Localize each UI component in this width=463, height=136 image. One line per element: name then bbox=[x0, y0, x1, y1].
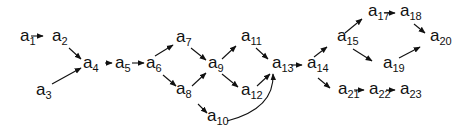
node-a10: a10 bbox=[207, 106, 229, 127]
node-letter: a bbox=[369, 79, 379, 98]
node-letter: a bbox=[83, 53, 93, 72]
node-subscript: 8 bbox=[186, 88, 192, 100]
node-letter: a bbox=[176, 79, 186, 98]
edge-a15-to-a19 bbox=[353, 49, 372, 61]
edge-a19-to-a20 bbox=[399, 47, 420, 58]
node-letter: a bbox=[36, 80, 46, 99]
edge-a3-to-a4 bbox=[52, 68, 81, 84]
edge-a15-to-a17 bbox=[345, 19, 362, 33]
node-subscript: 2 bbox=[62, 35, 68, 47]
node-subscript: 17 bbox=[378, 10, 390, 22]
node-letter: a bbox=[241, 26, 251, 45]
node-subscript: 5 bbox=[125, 62, 131, 74]
node-a8: a8 bbox=[176, 79, 192, 100]
edge-a8-to-a9 bbox=[192, 73, 206, 86]
node-a14: a14 bbox=[307, 53, 329, 74]
node-letter: a bbox=[241, 80, 251, 99]
node-letter: a bbox=[20, 26, 30, 45]
node-a3: a3 bbox=[36, 80, 52, 101]
node-subscript: 23 bbox=[410, 88, 422, 100]
edge-a18-to-a20 bbox=[414, 24, 425, 33]
node-a22: a22 bbox=[369, 79, 391, 100]
node-subscript: 3 bbox=[46, 89, 52, 101]
node-subscript: 1 bbox=[30, 35, 36, 47]
node-letter: a bbox=[52, 26, 62, 45]
node-a2: a2 bbox=[52, 26, 68, 47]
node-letter: a bbox=[176, 27, 186, 46]
node-letter: a bbox=[115, 53, 125, 72]
edge-a6-to-a7 bbox=[155, 45, 173, 56]
node-letter: a bbox=[208, 53, 218, 72]
node-a18: a18 bbox=[400, 1, 422, 22]
node-subscript: 9 bbox=[218, 62, 224, 74]
node-subscript: 21 bbox=[348, 88, 360, 100]
edge-a12-to-a13 bbox=[257, 74, 270, 86]
node-subscript: 11 bbox=[251, 35, 262, 47]
node-a1: a1 bbox=[20, 26, 36, 47]
node-subscript: 20 bbox=[440, 35, 452, 47]
node-letter: a bbox=[207, 106, 217, 125]
edge-a2-to-a4 bbox=[69, 48, 81, 59]
node-subscript: 22 bbox=[379, 88, 391, 100]
node-letter: a bbox=[368, 1, 378, 20]
node-letter: a bbox=[400, 1, 410, 20]
node-subscript: 19 bbox=[393, 62, 405, 74]
node-a17: a17 bbox=[368, 1, 390, 22]
node-a20: a20 bbox=[430, 26, 452, 47]
node-subscript: 18 bbox=[410, 10, 422, 22]
node-subscript: 10 bbox=[217, 115, 229, 127]
edge-a11-to-a13 bbox=[256, 48, 268, 59]
node-letter: a bbox=[307, 53, 317, 72]
node-subscript: 15 bbox=[347, 35, 359, 47]
node-a15: a15 bbox=[337, 26, 359, 47]
node-subscript: 14 bbox=[317, 62, 329, 74]
node-a9: a9 bbox=[208, 53, 224, 74]
node-letter: a bbox=[430, 26, 440, 45]
edge-a9-to-a11 bbox=[222, 46, 236, 59]
node-letter: a bbox=[337, 26, 347, 45]
node-letter: a bbox=[146, 53, 156, 72]
node-subscript: 12 bbox=[251, 89, 263, 101]
directed-graph: a1a2a3a4a5a6a7a8a9a10a11a12a13a14a15a17a… bbox=[0, 0, 463, 136]
node-a4: a4 bbox=[83, 53, 99, 74]
edge-a14-to-a21 bbox=[318, 78, 330, 88]
node-letter: a bbox=[338, 79, 348, 98]
node-a7: a7 bbox=[176, 27, 192, 48]
node-letter: a bbox=[383, 53, 393, 72]
node-a6: a6 bbox=[146, 53, 162, 74]
node-subscript: 4 bbox=[93, 62, 99, 74]
edge-a7-to-a9 bbox=[191, 48, 206, 60]
nodes-layer: a1a2a3a4a5a6a7a8a9a10a11a12a13a14a15a17a… bbox=[20, 1, 452, 127]
node-a21: a21 bbox=[338, 79, 360, 100]
node-subscript: 13 bbox=[282, 62, 294, 74]
edge-a9-to-a12 bbox=[222, 74, 238, 87]
node-letter: a bbox=[272, 53, 282, 72]
graph-canvas: a1a2a3a4a5a6a7a8a9a10a11a12a13a14a15a17a… bbox=[0, 0, 463, 136]
node-subscript: 7 bbox=[186, 36, 192, 48]
node-a11: a11 bbox=[241, 26, 262, 47]
edge-a8-to-a10 bbox=[198, 104, 207, 113]
node-subscript: 6 bbox=[156, 62, 162, 74]
node-a23: a23 bbox=[400, 79, 422, 100]
node-a5: a5 bbox=[115, 53, 131, 74]
node-letter: a bbox=[400, 79, 410, 98]
edge-a6-to-a8 bbox=[163, 75, 176, 86]
node-a13: a13 bbox=[272, 53, 294, 74]
